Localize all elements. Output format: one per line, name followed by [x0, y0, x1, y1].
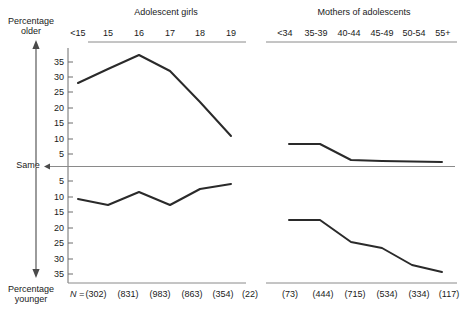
y-tick-upper-15: 15 — [54, 118, 64, 128]
y-tick-lower-25: 25 — [54, 238, 64, 248]
direction-arrow-down — [32, 168, 39, 278]
x-axis-categories-mothers: <34 35-39 40-44 45-49 50-54 55+ — [277, 28, 450, 38]
y-tick-lower-10: 10 — [54, 192, 64, 202]
x-category-16: 16 — [134, 28, 144, 38]
x-category-35-39: 35-39 — [304, 28, 327, 38]
n-value-19: (22) — [242, 289, 258, 299]
n-value-16: (983) — [149, 289, 170, 299]
group-title-adolescent-girls: Adolescent girls — [134, 7, 198, 17]
n-value-35-39: (444) — [312, 289, 333, 299]
axis-label-older-line2: older — [21, 26, 41, 36]
y-tick-upper-5: 5 — [59, 149, 64, 159]
axis-label-younger-line1: Percentage — [8, 284, 54, 294]
line-younger-adolescent-girls — [78, 184, 231, 205]
line-older-adolescent-girls — [78, 55, 231, 136]
x-category-lt15: <15 — [70, 28, 85, 38]
x-category-55plus: 55+ — [435, 28, 450, 38]
n-prefix-label: N = — [70, 289, 84, 299]
n-value-45-49: (534) — [376, 289, 397, 299]
y-tick-upper-10: 10 — [54, 134, 64, 144]
direction-arrow-up — [32, 40, 39, 165]
diverging-line-chart: Percentage older Percentage younger Same — [0, 0, 467, 310]
same-pointer-arrow — [44, 164, 50, 170]
x-category-50-54: 50-54 — [402, 28, 425, 38]
n-value-lt34: (73) — [282, 289, 298, 299]
n-value-40-44: (715) — [344, 289, 365, 299]
x-category-45-49: 45-49 — [370, 28, 393, 38]
n-value-15: (831) — [117, 289, 138, 299]
chart-canvas: Percentage older Percentage younger Same — [0, 0, 467, 310]
y-tick-lower-30: 30 — [54, 254, 64, 264]
n-value-lt15: (302) — [85, 289, 106, 299]
y-tick-upper-25: 25 — [54, 87, 64, 97]
x-category-19: 19 — [226, 28, 236, 38]
n-values-adolescent-girls: (302) (831) (983) (863) (354) (22) — [85, 289, 258, 299]
x-category-17: 17 — [165, 28, 175, 38]
line-younger-mothers — [289, 220, 442, 272]
group-title-mothers: Mothers of adolescents — [317, 7, 411, 17]
n-value-55plus: (117) — [439, 289, 459, 299]
x-axis-categories-adolescent-girls: <15 15 16 17 18 19 — [70, 28, 236, 38]
y-tick-lower-15: 15 — [54, 207, 64, 217]
y-tick-lower-35: 35 — [54, 269, 64, 279]
x-category-15: 15 — [103, 28, 113, 38]
y-axis-lower-ticks: 5 10 15 20 25 30 35 — [54, 176, 73, 279]
n-value-17: (863) — [181, 289, 202, 299]
axis-label-older-line1: Percentage — [8, 16, 54, 26]
y-tick-lower-20: 20 — [54, 223, 64, 233]
n-values-mothers: (73) (444) (715) (534) (334) (117) — [282, 289, 459, 299]
line-older-mothers — [289, 144, 442, 162]
x-category-18: 18 — [195, 28, 205, 38]
y-tick-upper-35: 35 — [54, 57, 64, 67]
y-tick-lower-5: 5 — [59, 176, 64, 186]
x-category-lt34: <34 — [277, 28, 292, 38]
n-value-50-54: (334) — [408, 289, 429, 299]
n-value-18: (354) — [212, 289, 233, 299]
y-tick-upper-20: 20 — [54, 103, 64, 113]
y-axis-upper-ticks: 35 30 25 20 15 10 5 — [54, 57, 73, 159]
x-category-40-44: 40-44 — [337, 28, 360, 38]
axis-label-younger-line2: younger — [15, 294, 48, 304]
y-tick-upper-30: 30 — [54, 72, 64, 82]
